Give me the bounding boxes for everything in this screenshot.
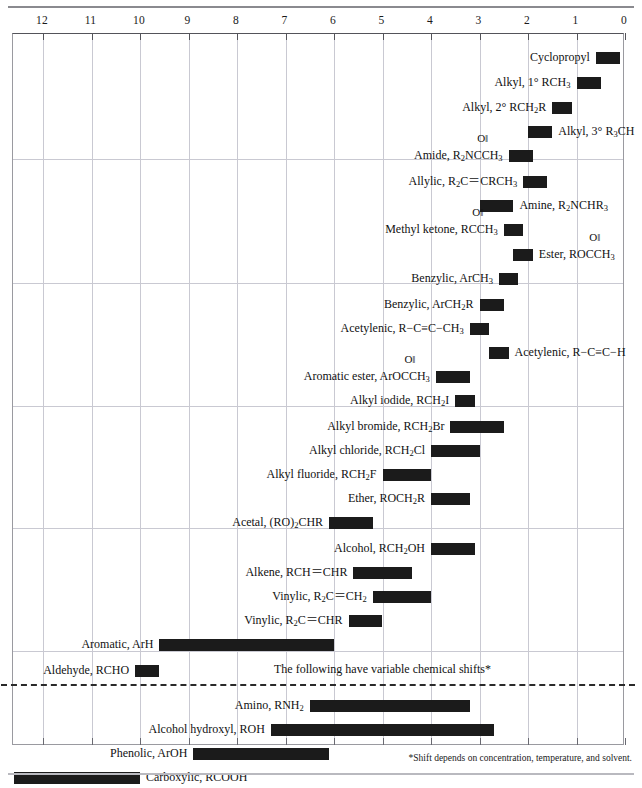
shift-range-bar (470, 323, 489, 335)
shift-range-bar (383, 469, 432, 481)
chart-row: Aromatic, ArH (13, 633, 623, 657)
shift-range-label: Alkene, RCH＝CHR (245, 563, 353, 582)
axis-tickmark-6 (334, 33, 335, 40)
chart-row: Methyl ketone, RCO‖CH3 (13, 218, 623, 242)
variable-shift-divider (1, 684, 635, 686)
chart-row: Acetylenic, R−C≡C−H (13, 341, 623, 365)
shift-range-label: Methyl ketone, RCO‖CH3 (385, 220, 504, 242)
axis-tickmark-8 (237, 33, 238, 40)
chart-row: Alkyl, 1° RCH3 (13, 71, 623, 95)
chart-row: Alkyl fluoride, RCH2F (13, 463, 623, 487)
axis-tickmark-bottom-0 (625, 738, 626, 745)
chart-plot-area: The following have variable chemical shi… (12, 33, 624, 745)
chart-row: Acetylenic, R−C≡C−CH3 (13, 317, 623, 341)
shift-range-label: Vinylic, R2C＝CHR (244, 611, 348, 633)
shift-range-bar (513, 249, 532, 261)
shift-range-label: Carboxylic, RCOOH (140, 768, 247, 787)
axis-tick-label-11: 11 (85, 14, 96, 26)
axis-tick-label-6: 6 (330, 14, 336, 26)
shift-range-bar (480, 200, 514, 212)
shift-range-label: Aldehyde, RCHO (43, 661, 135, 680)
shift-range-bar (455, 395, 474, 407)
chart-row: Benzylic, ArCH2R (13, 293, 623, 317)
axis-tick-label-9: 9 (185, 14, 191, 26)
shift-range-bar (480, 299, 504, 311)
axis-tickmark-10 (140, 33, 141, 40)
shift-range-label: Alkyl, 2° RCH2R (462, 98, 552, 120)
axis-tick-label-12: 12 (36, 14, 48, 26)
axis-tick-label-5: 5 (379, 14, 385, 26)
axis-tick-label-0: 0 (621, 14, 627, 26)
axis-tickmark-11 (92, 33, 93, 40)
shift-range-label: Amino, RNH2 (235, 696, 310, 718)
shift-range-bar (552, 102, 571, 114)
axis-tick-label-7: 7 (282, 14, 288, 26)
shift-range-label: Benzylic, ArCH3 (411, 269, 499, 291)
chart-row: Alkyl bromide, RCH2Br (13, 415, 623, 439)
axis-tick-label-3: 3 (476, 14, 482, 26)
shift-range-label: Alkyl iodide, RCH2I (350, 391, 455, 413)
shift-range-label: Alkyl bromide, RCH2Br (327, 417, 450, 439)
shift-range-bar (509, 150, 533, 162)
axis-tickmark-2 (528, 33, 529, 40)
shift-range-bar (431, 543, 475, 555)
shift-range-bar (499, 273, 518, 285)
chart-row: Ester, ROCO‖CH3 (13, 243, 623, 267)
shift-range-bar (528, 126, 552, 138)
chart-row: Ether, ROCH2R (13, 487, 623, 511)
chart-row: Vinylic, R2C＝CHR (13, 609, 623, 633)
shift-range-label: Acetylenic, R−C≡C−CH3 (341, 319, 470, 341)
chart-row: Allylic, R2C＝CRCH3 (13, 170, 623, 194)
axis-tickmark-4 (431, 33, 432, 40)
ppm-axis: 1211109876543210 (0, 14, 642, 32)
shift-range-bar (523, 176, 547, 188)
axis-tickmark-7 (286, 33, 287, 40)
chart-row: Benzylic, ArCH3 (13, 267, 623, 291)
chart-row: Cyclopropyl (13, 46, 623, 70)
chart-row: Alkyl, 3° R3CH (13, 120, 623, 144)
axis-tickmark-3 (480, 33, 481, 40)
axis-tickmark-12 (43, 33, 44, 40)
chart-row: Alkyl chloride, RCH2Cl (13, 439, 623, 463)
chart-row: Amine, R2NCHR3 (13, 194, 623, 218)
axis-tickmark-9 (189, 33, 190, 40)
shift-range-label: Alkyl chloride, RCH2Cl (309, 441, 431, 463)
shift-range-label: Amide, R2NCO‖CH3 (414, 146, 509, 168)
shift-range-label: Ester, ROCO‖CH3 (533, 245, 615, 267)
axis-tick-label-10: 10 (133, 14, 145, 26)
shift-range-bar (577, 77, 601, 89)
shift-range-bar (504, 224, 523, 236)
shift-range-label: Ether, ROCH2R (348, 489, 431, 511)
shift-range-label: Cyclopropyl (530, 48, 596, 67)
axis-tickmark-1 (577, 33, 578, 40)
shift-range-bar (596, 52, 620, 64)
shift-range-label: Acetal, (RO)2CHR (232, 513, 329, 535)
chart-row: Aldehyde, RCHO (13, 659, 623, 683)
axis-tick-label-1: 1 (573, 14, 579, 26)
chart-row: Alkyl iodide, RCH2I (13, 389, 623, 413)
axis-tickmark-5 (383, 33, 384, 40)
axis-tick-label-8: 8 (233, 14, 239, 26)
shift-range-bar (271, 724, 494, 736)
shift-range-bar (159, 639, 334, 651)
shift-range-label: Phenolic, ArOH (110, 744, 193, 763)
shift-range-bar (431, 445, 480, 457)
axis-tick-label-2: 2 (524, 14, 530, 26)
chart-row: Acetal, (RO)2CHR (13, 511, 623, 535)
shift-range-label: Amine, R2NCHR3 (513, 196, 608, 218)
shift-range-bar (436, 371, 470, 383)
chart-row: Vinylic, R2C＝CH2 (13, 585, 623, 609)
shift-range-label: Alkyl, 3° R3CH (552, 122, 634, 144)
shift-range-label: Benzylic, ArCH2R (384, 295, 480, 317)
shift-range-label: Vinylic, R2C＝CH2 (272, 587, 372, 609)
shift-range-bar (489, 347, 508, 359)
chart-row: Alcohol hydroxyl, ROH (13, 718, 623, 742)
shift-range-bar (329, 517, 373, 529)
chart-row: Carboxylic, RCOOH (13, 766, 623, 788)
shift-range-bar (193, 748, 329, 760)
bottom-rule (8, 773, 634, 775)
chart-row: Alkyl, 2° RCH2R (13, 96, 623, 120)
shift-range-bar (373, 591, 431, 603)
chart-row: Amide, R2NCO‖CH3 (13, 144, 623, 168)
